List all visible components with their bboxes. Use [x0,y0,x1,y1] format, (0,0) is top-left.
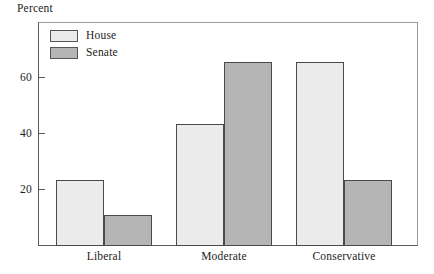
legend-swatch-senate [50,47,78,59]
x-category-label-conservative: Conservative [294,250,394,262]
y-tick-label-40: 40 [6,127,32,139]
bar-house-liberal [56,180,104,246]
bar-senate-conservative [344,180,392,246]
legend-label-senate: Senate [86,46,118,59]
y-axis-caption: Percent [17,2,53,14]
bar-house-conservative [296,62,344,246]
bar-senate-liberal [104,215,152,246]
legend-item-senate: Senate [50,46,118,59]
y-tick-mark-60 [39,77,45,78]
y-tick-mark-40 [39,133,45,134]
x-category-label-liberal: Liberal [54,250,154,262]
bar-chart-figure: Percent 60 40 20 House Senate Liberal Mo… [0,0,434,274]
y-tick-label-20: 20 [6,183,32,195]
legend-item-house: House [50,29,118,42]
legend-swatch-house [50,30,78,42]
y-tick-label-60: 60 [6,71,32,83]
legend: House Senate [50,29,118,59]
x-category-label-moderate: Moderate [174,250,274,262]
y-tick-mark-20 [39,189,45,190]
legend-label-house: House [86,29,116,42]
bar-senate-moderate [224,62,272,246]
bar-house-moderate [176,124,224,246]
